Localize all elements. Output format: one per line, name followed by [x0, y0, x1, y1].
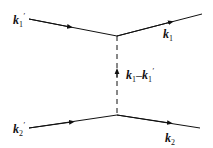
- feynman-diagram: [0, 0, 213, 148]
- label-exchange-momentum: k1–k1′: [126, 68, 154, 84]
- label-k2-prime: k2′: [13, 122, 25, 138]
- label-k2: k2: [165, 132, 175, 147]
- label-k1: k1: [163, 28, 173, 43]
- label-k1-prime: k1′: [13, 13, 25, 29]
